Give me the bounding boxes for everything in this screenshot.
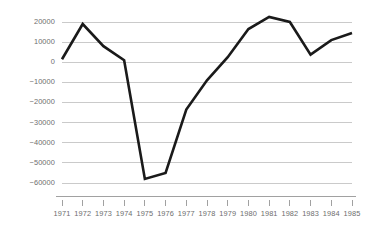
- x-axis-tick-label: 1985: [344, 209, 361, 218]
- x-axis-tick-label: 1971: [54, 209, 71, 218]
- y-axis-tick-label: −20000: [30, 97, 55, 106]
- series-line: [62, 17, 352, 179]
- x-axis-tick-label: 1976: [157, 209, 174, 218]
- y-axis-tick-label: −40000: [30, 138, 55, 147]
- x-axis-tick-label: 1979: [219, 209, 236, 218]
- y-axis-tick-label: 10000: [34, 37, 55, 46]
- y-axis-tick-label: 0: [51, 57, 55, 66]
- x-axis-tick-marks: [62, 200, 352, 206]
- x-axis-tick-label: 1984: [323, 209, 340, 218]
- x-axis-tick-labels: 1971197219731974197519761977197819791980…: [54, 209, 361, 218]
- y-axis-tick-label: 20000: [34, 17, 55, 26]
- y-axis-tick-label: −50000: [30, 158, 55, 167]
- line-chart: 20000100000−10000−20000−30000−40000−5000…: [0, 0, 378, 235]
- x-axis-tick-label: 1973: [95, 209, 112, 218]
- chart-container: 20000100000−10000−20000−30000−40000−5000…: [0, 0, 378, 235]
- x-axis-tick-label: 1978: [199, 209, 216, 218]
- x-axis-tick-label: 1977: [178, 209, 195, 218]
- x-axis-tick-label: 1983: [302, 209, 319, 218]
- x-axis-tick-label: 1981: [261, 209, 278, 218]
- x-axis-tick-label: 1975: [136, 209, 153, 218]
- y-axis-tick-labels: 20000100000−10000−20000−30000−40000−5000…: [30, 17, 55, 187]
- data-series: [62, 17, 352, 179]
- y-axis-tick-label: −30000: [30, 118, 55, 127]
- y-axis-tick-label: −60000: [30, 178, 55, 187]
- x-axis-tick-label: 1980: [240, 209, 257, 218]
- x-axis-tick-label: 1974: [116, 209, 133, 218]
- x-axis-tick-label: 1972: [74, 209, 91, 218]
- y-axis-tick-label: −10000: [30, 77, 55, 86]
- x-axis-tick-label: 1982: [281, 209, 298, 218]
